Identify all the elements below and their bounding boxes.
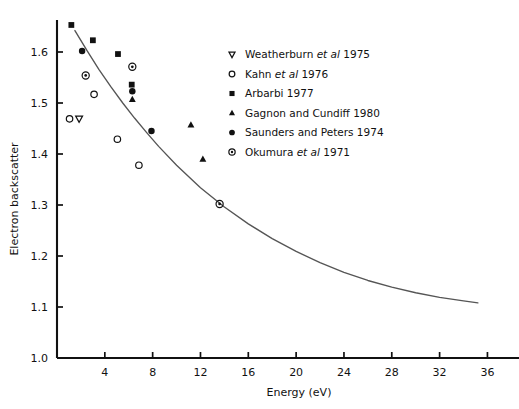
triangle-up-filled-icon (187, 121, 194, 127)
chart-svg: 1.01.11.21.31.41.51.64812162024283236Ene… (0, 0, 519, 409)
circle-open-icon (114, 136, 120, 142)
triangle-down-open-icon (229, 52, 235, 58)
data-point (187, 121, 194, 127)
square-filled-icon (115, 51, 121, 57)
series-0 (76, 116, 83, 122)
chart-figure: 1.01.11.21.31.41.51.64812162024283236Ene… (0, 0, 519, 409)
series-3 (129, 96, 206, 162)
series-2 (68, 22, 134, 87)
data-point (129, 63, 136, 70)
legend: Weatherburn et al 1975Kahn et al 1976Arb… (229, 48, 384, 158)
legend-label: Arbarbi 1977 (245, 87, 314, 99)
data-point (76, 116, 83, 122)
legend-label: Gagnon and Cundiff 1980 (245, 107, 380, 119)
data-point (216, 200, 223, 207)
circle-filled-icon (229, 130, 235, 136)
x-tick-label: 32 (433, 366, 447, 379)
circle-dot-center-icon (231, 151, 233, 153)
legend-marker (229, 110, 235, 116)
square-filled-icon (68, 22, 74, 28)
x-tick-label: 8 (149, 366, 156, 379)
circle-filled-icon (79, 48, 85, 54)
legend-marker (229, 130, 235, 136)
circle-filled-icon (129, 88, 135, 94)
triangle-down-open-icon (76, 116, 83, 122)
circle-dot-center-icon (84, 74, 87, 77)
x-tick-label: 36 (480, 366, 494, 379)
x-axis-title: Energy (eV) (267, 386, 332, 399)
legend-item: Saunders and Peters 1974 (229, 126, 384, 138)
data-point (129, 82, 135, 88)
triangle-up-filled-icon (199, 156, 206, 162)
circle-filled-icon (148, 128, 154, 134)
data-point (148, 128, 154, 134)
legend-item: Okumura et al 1971 (229, 146, 350, 158)
y-tick-label: 1.5 (31, 97, 49, 110)
legend-label: Okumura et al 1971 (245, 146, 350, 158)
data-point (90, 37, 96, 43)
circle-open-icon (91, 91, 97, 97)
square-filled-icon (129, 82, 135, 88)
data-points-layer (66, 22, 223, 207)
legend-item: Weatherburn et al 1975 (229, 48, 370, 60)
y-tick-label: 1.4 (31, 148, 49, 161)
data-point (129, 96, 136, 102)
series-5 (82, 63, 223, 207)
square-filled-icon (90, 37, 96, 43)
legend-item: Kahn et al 1976 (229, 68, 328, 80)
legend-item: Gagnon and Cundiff 1980 (229, 107, 380, 119)
x-tick-label: 20 (289, 366, 303, 379)
legend-marker (229, 52, 235, 58)
data-point (68, 22, 74, 28)
y-tick-label: 1.1 (31, 301, 49, 314)
legend-label: Weatherburn et al 1975 (245, 48, 370, 60)
circle-open-icon (136, 162, 142, 168)
data-point (82, 72, 89, 79)
legend-marker (229, 149, 235, 155)
legend-label: Kahn et al 1976 (245, 68, 328, 80)
y-axis-title: Electron backscatter (8, 142, 21, 256)
x-tick-label: 16 (241, 366, 255, 379)
y-tick-label: 1.2 (31, 250, 49, 263)
square-filled-icon (229, 91, 234, 96)
circle-open-icon (229, 71, 235, 77)
circle-dot-center-icon (131, 65, 134, 68)
triangle-up-filled-icon (229, 110, 235, 116)
y-tick-label: 1.0 (31, 352, 49, 365)
data-point (115, 51, 121, 57)
circle-open-icon (66, 116, 72, 122)
y-tick-label: 1.3 (31, 199, 49, 212)
data-point (66, 116, 72, 122)
x-tick-label: 24 (337, 366, 351, 379)
x-tick-label: 12 (193, 366, 207, 379)
circle-dot-center-icon (218, 203, 221, 206)
data-point (136, 162, 142, 168)
legend-label: Saunders and Peters 1974 (245, 126, 384, 138)
data-point (199, 156, 206, 162)
x-tick-label: 4 (101, 366, 108, 379)
data-point (114, 136, 120, 142)
series-1 (66, 91, 142, 168)
triangle-up-filled-icon (129, 96, 136, 102)
data-point (79, 48, 85, 54)
legend-marker (229, 91, 234, 96)
x-tick-label: 28 (385, 366, 399, 379)
data-point (129, 88, 135, 94)
data-point (91, 91, 97, 97)
legend-item: Arbarbi 1977 (229, 87, 313, 99)
series-4 (79, 48, 155, 135)
y-tick-label: 1.6 (31, 46, 49, 59)
legend-marker (229, 71, 235, 77)
